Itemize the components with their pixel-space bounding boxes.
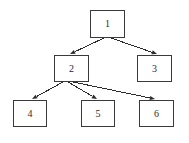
arrowhead-2-to-4 xyxy=(32,95,38,99)
node-3[interactable]: 3 xyxy=(137,55,172,82)
node-1[interactable]: 1 xyxy=(90,10,125,38)
tree-diagram-canvas: 1 2 3 4 5 6 xyxy=(0,0,189,143)
arrowhead-1-to-2 xyxy=(70,50,76,54)
arrowhead-1-to-3 xyxy=(151,50,157,54)
node-6[interactable]: 6 xyxy=(139,100,174,127)
node-2-label: 2 xyxy=(69,64,74,74)
edge-1-to-2 xyxy=(75,38,104,52)
node-5-label: 5 xyxy=(96,109,101,119)
node-3-label: 3 xyxy=(152,64,157,74)
arrowhead-2-to-5 xyxy=(91,95,97,99)
node-4[interactable]: 4 xyxy=(13,100,47,127)
edge-1-to-3 xyxy=(111,38,152,52)
node-1-label: 1 xyxy=(105,19,110,29)
node-2[interactable]: 2 xyxy=(54,55,89,82)
edge-2-to-4 xyxy=(37,82,63,96)
node-5[interactable]: 5 xyxy=(81,100,115,127)
node-4-label: 4 xyxy=(28,109,33,119)
edge-2-to-5 xyxy=(68,82,93,96)
node-6-label: 6 xyxy=(154,109,159,119)
edge-2-to-6 xyxy=(73,82,150,98)
